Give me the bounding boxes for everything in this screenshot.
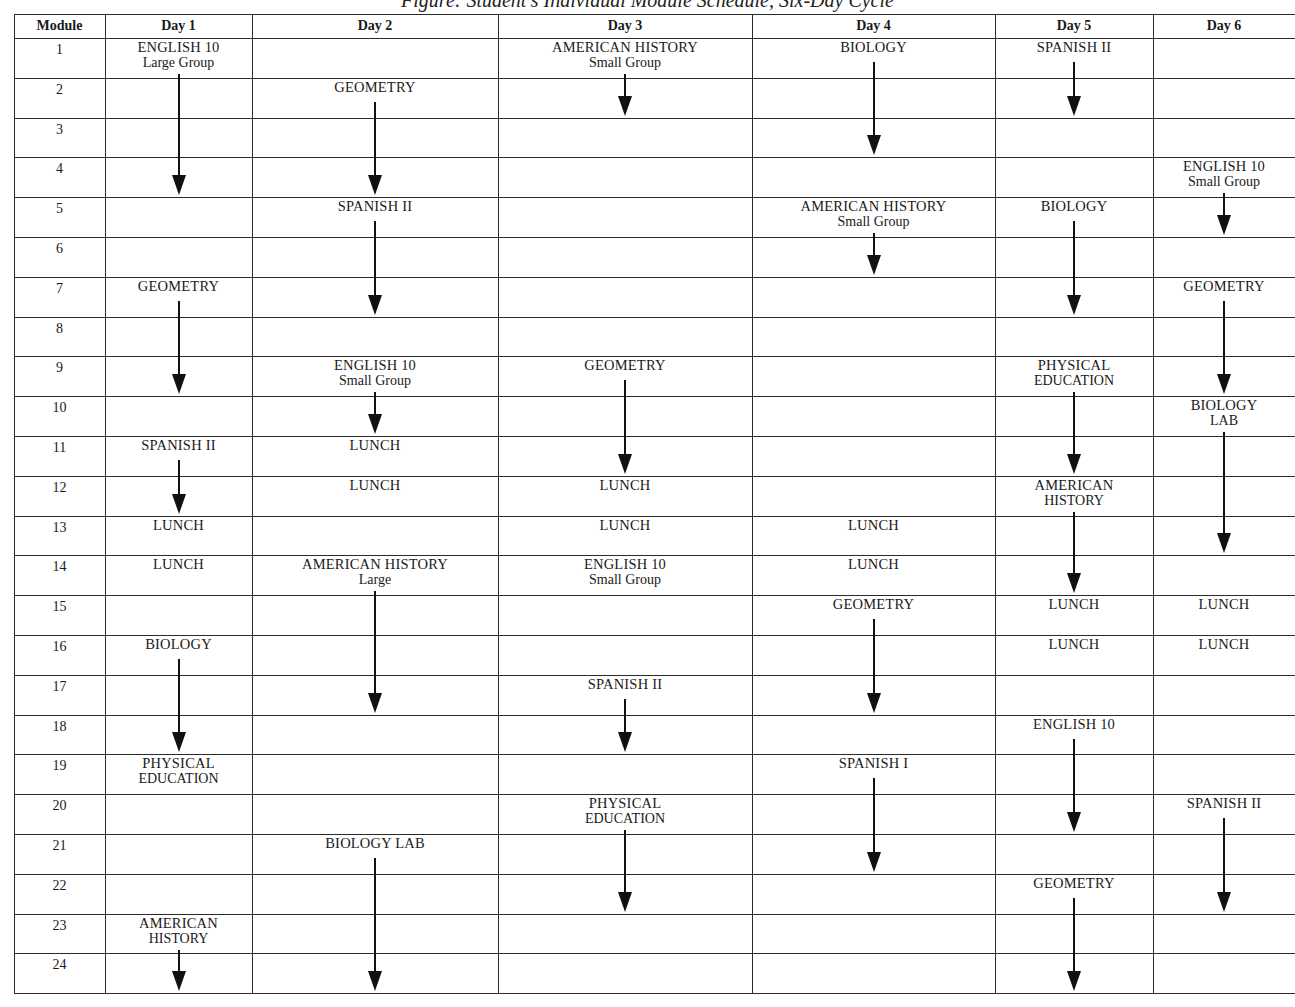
- duration-arrow-icon: [367, 221, 383, 314]
- course-block: ENGLISH 10Small Group: [1153, 159, 1295, 189]
- course-name: SPANISH II: [338, 198, 412, 214]
- course-name: AMERICAN: [1035, 477, 1114, 493]
- duration-arrow-icon: [171, 301, 187, 394]
- course-name: BIOLOGY: [840, 39, 907, 55]
- course-block: PHYSICALEDUCATION: [105, 756, 252, 786]
- course-group: Small Group: [1153, 174, 1295, 189]
- row-divider: [14, 834, 1295, 835]
- duration-arrow-icon: [1216, 301, 1232, 394]
- course-name: LUNCH: [600, 477, 651, 493]
- duration-arrow-icon: [866, 619, 882, 712]
- course-block: LUNCH: [995, 597, 1153, 612]
- module-number: 2: [14, 82, 105, 98]
- duration-arrow-icon: [171, 460, 187, 514]
- course-group: HISTORY: [105, 931, 252, 946]
- course-group: Small Group: [498, 572, 752, 587]
- course-name: LUNCH: [153, 517, 204, 533]
- row-divider: [14, 157, 1295, 158]
- day-column-header: Day 5: [995, 14, 1153, 38]
- module-number: 19: [14, 758, 105, 774]
- course-name: PHYSICAL: [1038, 357, 1111, 373]
- module-column-header: Module: [14, 14, 105, 38]
- duration-arrow-icon: [866, 62, 882, 155]
- course-block: LUNCH: [1153, 597, 1295, 612]
- course-name: LUNCH: [1199, 636, 1250, 652]
- duration-arrow-icon: [866, 233, 882, 275]
- module-number: 16: [14, 639, 105, 655]
- duration-arrow-icon: [1066, 898, 1082, 991]
- course-block: LUNCH: [105, 518, 252, 533]
- row-divider: [14, 237, 1295, 238]
- course-block: AMERICAN HISTORYLarge: [252, 557, 498, 587]
- module-number: 17: [14, 679, 105, 695]
- course-block: LUNCH: [752, 557, 995, 572]
- course-block: AMERICAN HISTORYSmall Group: [498, 40, 752, 70]
- duration-arrow-icon: [367, 591, 383, 712]
- row-divider: [14, 516, 1295, 517]
- course-name: ENGLISH 10: [334, 357, 416, 373]
- course-name: LUNCH: [350, 437, 401, 453]
- duration-arrow-icon: [171, 950, 187, 992]
- course-block: SPANISH II: [1153, 796, 1295, 811]
- course-block: BIOLOGY: [105, 637, 252, 652]
- course-block: LUNCH: [995, 637, 1153, 652]
- course-name: LUNCH: [600, 517, 651, 533]
- course-group: EDUCATION: [498, 811, 752, 826]
- course-name: LUNCH: [1049, 596, 1100, 612]
- module-number: 14: [14, 559, 105, 575]
- day-column-header: Day 2: [252, 14, 498, 38]
- course-group: Large: [252, 572, 498, 587]
- course-name: GEOMETRY: [138, 278, 219, 294]
- course-name: GEOMETRY: [1033, 875, 1114, 891]
- duration-arrow-icon: [367, 858, 383, 991]
- module-number: 13: [14, 520, 105, 536]
- course-block: LUNCH: [1153, 637, 1295, 652]
- course-name: AMERICAN HISTORY: [552, 39, 698, 55]
- figure-title: Figure: Student's Individual Module Sche…: [0, 0, 1295, 12]
- course-name: SPANISH II: [141, 437, 215, 453]
- course-group: EDUCATION: [105, 771, 252, 786]
- course-name: GEOMETRY: [1183, 278, 1264, 294]
- course-block: AMERICAN HISTORYSmall Group: [752, 199, 995, 229]
- course-name: BIOLOGY LAB: [325, 835, 425, 851]
- duration-arrow-icon: [866, 778, 882, 871]
- course-block: BIOLOGY: [995, 199, 1153, 214]
- course-block: LUNCH: [252, 478, 498, 493]
- course-group: Small Group: [752, 214, 995, 229]
- course-block: PHYSICALEDUCATION: [498, 796, 752, 826]
- duration-arrow-icon: [1066, 221, 1082, 314]
- row-divider: [14, 993, 1295, 994]
- day-column-header: Day 1: [105, 14, 252, 38]
- module-number: 15: [14, 599, 105, 615]
- course-name: BIOLOGY: [1041, 198, 1108, 214]
- duration-arrow-icon: [1066, 512, 1082, 593]
- course-block: ENGLISH 10: [995, 717, 1153, 732]
- course-name: GEOMETRY: [584, 357, 665, 373]
- course-block: SPANISH I: [752, 756, 995, 771]
- duration-arrow-icon: [171, 659, 187, 752]
- module-number: 24: [14, 957, 105, 973]
- row-divider: [14, 595, 1295, 596]
- course-block: GEOMETRY: [995, 876, 1153, 891]
- duration-arrow-icon: [617, 380, 633, 473]
- course-group: Small Group: [252, 373, 498, 388]
- course-name: AMERICAN HISTORY: [302, 556, 448, 572]
- duration-arrow-icon: [367, 392, 383, 434]
- course-name: GEOMETRY: [833, 596, 914, 612]
- duration-arrow-icon: [617, 699, 633, 753]
- course-block: AMERICANHISTORY: [995, 478, 1153, 508]
- course-block: LUNCH: [252, 438, 498, 453]
- duration-arrow-icon: [1216, 193, 1232, 235]
- module-number: 1: [14, 42, 105, 58]
- course-block: SPANISH II: [995, 40, 1153, 55]
- module-number: 6: [14, 241, 105, 257]
- module-number: 23: [14, 918, 105, 934]
- course-block: GEOMETRY: [252, 80, 498, 95]
- module-number: 7: [14, 281, 105, 297]
- module-number: 20: [14, 798, 105, 814]
- course-block: GEOMETRY: [752, 597, 995, 612]
- course-block: BIOLOGYLAB: [1153, 398, 1295, 428]
- course-group: HISTORY: [995, 493, 1153, 508]
- column-divider: [105, 14, 106, 993]
- module-number: 22: [14, 878, 105, 894]
